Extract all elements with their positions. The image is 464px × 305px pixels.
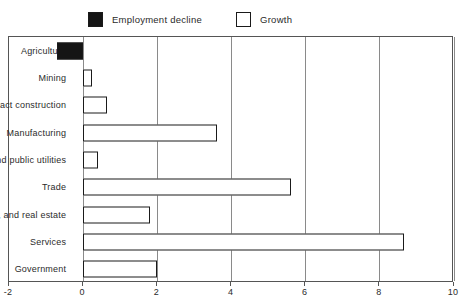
x-tick-label: -2 xyxy=(4,287,12,297)
bar-services xyxy=(83,233,404,250)
legend-label-growth: Growth xyxy=(260,14,292,25)
legend-entry-growth: Growth xyxy=(236,12,292,27)
legend-entry-employment-decline: Employment decline xyxy=(88,12,202,27)
bar-row: Government xyxy=(9,256,452,283)
x-tick-label: 2 xyxy=(154,287,159,297)
x-axis: -20246810 xyxy=(8,282,453,305)
x-tick-mark--2 xyxy=(8,282,9,286)
category-label: Contract construction xyxy=(0,100,73,110)
bar-row: Manufacturing xyxy=(9,119,452,146)
hollow-square-swatch-icon xyxy=(236,12,251,27)
x-tick-label: 8 xyxy=(376,287,381,297)
bar-row: Services xyxy=(9,228,452,255)
bar-trade xyxy=(83,179,291,196)
bar-manufacturing xyxy=(83,124,217,141)
bar-row: Transportation and public utilities xyxy=(9,146,452,173)
x-tick-mark-10 xyxy=(453,282,454,286)
category-label: Government xyxy=(15,264,74,274)
category-label: Services xyxy=(30,237,73,247)
x-tick-mark-0 xyxy=(82,282,83,286)
bar-finance-insurance-and-real-estate xyxy=(83,206,150,223)
bar-row: Trade xyxy=(9,174,452,201)
bar-row: Mining xyxy=(9,64,452,91)
x-tick-label: 0 xyxy=(80,287,85,297)
category-label: Transportation and public utilities xyxy=(0,155,73,165)
bar-rows: AgricultureMiningContract constructionMa… xyxy=(9,37,452,281)
bar-contract-construction xyxy=(83,97,107,114)
bar-government xyxy=(83,261,157,278)
bar-mining xyxy=(83,69,92,86)
x-tick-mark-8 xyxy=(378,282,379,286)
bar-transportation-and-public-utilities xyxy=(83,151,98,168)
x-tick-label: 4 xyxy=(228,287,233,297)
category-label: Trade xyxy=(42,182,73,192)
x-tick-mark-2 xyxy=(156,282,157,286)
x-tick-label: 6 xyxy=(302,287,307,297)
category-label: Mining xyxy=(38,73,73,83)
bar-row: Contract construction xyxy=(9,92,452,119)
filled-square-swatch-icon xyxy=(88,12,103,27)
gridline-10 xyxy=(454,37,455,281)
bar-row: Finance, insurance, and real estate xyxy=(9,201,452,228)
plot-area: AgricultureMiningContract constructionMa… xyxy=(8,36,453,282)
x-tick-label: 10 xyxy=(448,287,458,297)
bar-row: Agriculture xyxy=(9,37,452,64)
chart-legend: Employment decline Growth xyxy=(0,8,464,30)
bar-agriculture xyxy=(57,42,83,59)
legend-label-employment-decline: Employment decline xyxy=(112,14,202,25)
x-tick-mark-4 xyxy=(230,282,231,286)
category-label: Manufacturing xyxy=(7,128,74,138)
x-tick-mark-6 xyxy=(304,282,305,286)
category-label: Finance, insurance, and real estate xyxy=(0,210,73,220)
